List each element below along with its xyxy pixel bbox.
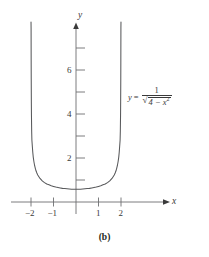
x-tick-label-1: 1: [96, 209, 101, 218]
equation-fraction: 1 √ 4 − x2: [142, 86, 172, 108]
x-axis: [11, 199, 170, 205]
x-tick-label-minus2: −2: [25, 209, 35, 218]
equation-annotation: y = 1 √ 4 − x2: [128, 86, 172, 108]
y-tick-label-2: 2: [67, 154, 72, 163]
equation-lhs: y: [128, 93, 132, 102]
radicand-exponent: 2: [167, 97, 170, 103]
radicand: 4 − x2: [148, 97, 171, 108]
radical-sign-icon: √: [143, 96, 148, 108]
y-tick-label-6: 6: [67, 66, 72, 75]
equation-equals: =: [134, 93, 139, 102]
plot-area: [0, 0, 209, 257]
equation-numerator: 1: [150, 86, 162, 95]
equation-denominator: √ 4 − x2: [142, 96, 172, 108]
figure-container: −2 −1 1 2 2 4 6 x y y = 1 √ 4 − x2 (b): [0, 0, 209, 257]
y-axis-label: y: [78, 11, 82, 21]
x-tick-label-2: 2: [119, 209, 124, 218]
radicand-base: 4 − x: [149, 97, 167, 107]
x-tick-label-minus1: −1: [48, 209, 58, 218]
figure-caption: (b): [0, 232, 209, 242]
y-axis: [73, 23, 79, 215]
x-axis-label: x: [172, 197, 176, 207]
y-axis-ticks: [76, 48, 85, 180]
y-tick-label-4: 4: [67, 110, 72, 119]
radical-group: √ 4 − x2: [143, 96, 171, 108]
